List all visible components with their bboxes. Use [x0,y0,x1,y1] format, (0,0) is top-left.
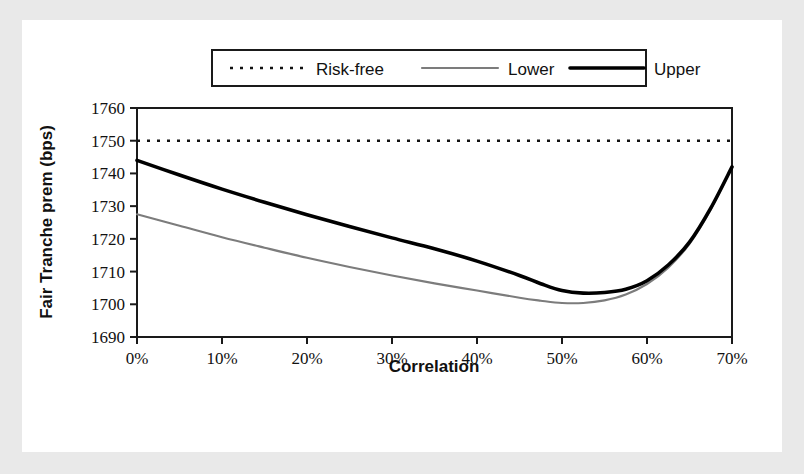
chart-legend: Risk-free Lower Upper [212,50,701,86]
x-axis-title: Correlation [389,357,480,376]
y-tick-label: 1700 [91,295,125,314]
x-tick-label: 60% [631,349,662,368]
series-group [137,141,732,304]
y-axis: 16901700171017201730174017501760 [91,99,137,347]
plot-frame [137,108,732,337]
series-upper-line [137,160,732,293]
figure-frame: Risk-free Lower Upper 169017001710172017… [0,0,804,474]
y-tick-label: 1710 [91,263,125,282]
legend-label-risk-free: Risk-free [316,60,384,79]
y-tick-label: 1760 [91,99,125,118]
x-tick-label: 50% [546,349,577,368]
figure-canvas: Risk-free Lower Upper 169017001710172017… [22,20,782,452]
x-tick-label: 10% [206,349,237,368]
legend-label-lower: Lower [508,60,555,79]
line-chart: Risk-free Lower Upper 169017001710172017… [22,20,782,452]
y-tick-label: 1730 [91,197,125,216]
y-tick-label: 1690 [91,328,125,347]
y-tick-label: 1720 [91,230,125,249]
x-tick-label: 0% [126,349,149,368]
x-tick-label: 70% [716,349,747,368]
y-tick-label: 1740 [91,164,125,183]
x-tick-label: 20% [291,349,322,368]
y-tick-label: 1750 [91,132,125,151]
legend-label-upper: Upper [654,60,701,79]
y-axis-title: Fair Tranche prem (bps) [37,125,56,319]
